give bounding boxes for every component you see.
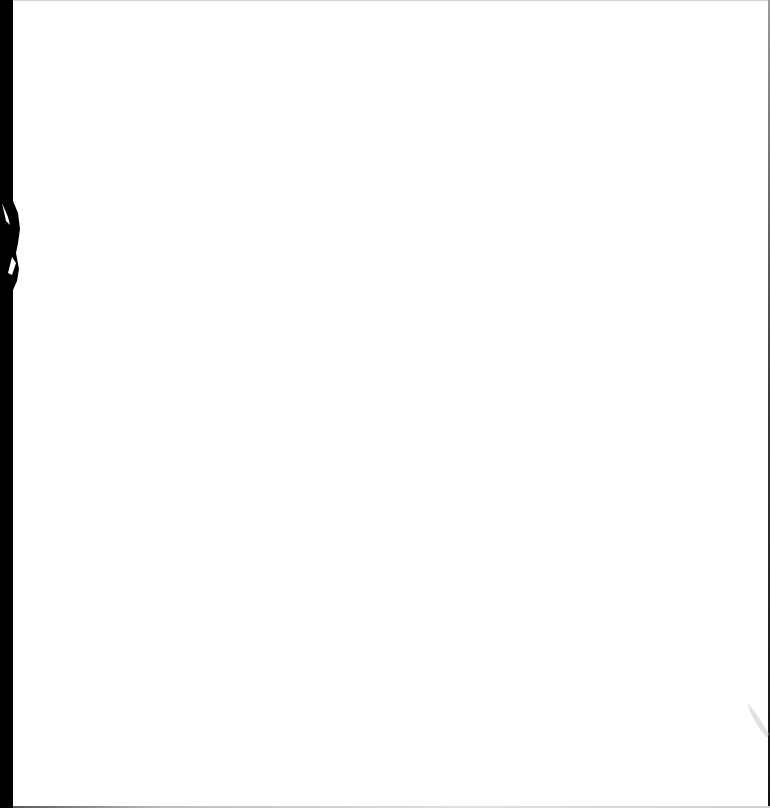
scan-smudge-icon bbox=[745, 700, 770, 740]
blank-content-area bbox=[13, 1, 768, 806]
scan-left-edge-shadow bbox=[0, 0, 13, 808]
scanned-page bbox=[0, 0, 770, 808]
scan-top-border bbox=[13, 0, 770, 1]
scan-edge-shadow-icon bbox=[0, 195, 20, 290]
